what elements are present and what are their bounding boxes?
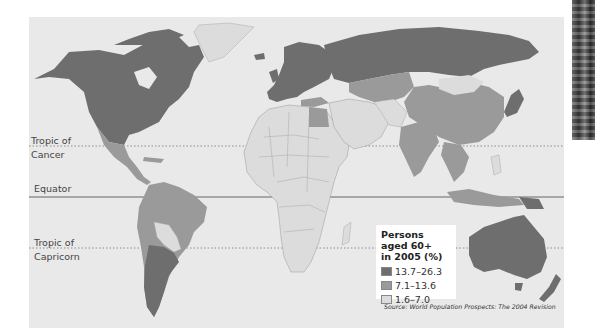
legend-item-high: 13.7–26.3	[381, 264, 451, 278]
world-map-panel: Tropic of Cancer Equator Tropic of Capri…	[29, 17, 564, 328]
legend-swatch-high	[381, 267, 392, 276]
tropic-of-capricorn-label: Tropic of Capricorn	[34, 237, 80, 263]
legend-swatch-mid	[381, 281, 392, 290]
egypt	[309, 107, 329, 127]
new-zealand	[539, 274, 561, 302]
north-america	[34, 37, 204, 145]
russia	[324, 27, 539, 83]
indonesia	[447, 189, 524, 207]
india	[399, 122, 439, 177]
source-caption: Source: World Population Prospects: The …	[384, 303, 556, 310]
legend-title: Persons aged 60+ in 2005 (%)	[381, 229, 451, 262]
japan	[504, 89, 524, 117]
australia	[469, 215, 547, 279]
legend-item-mid: 7.1–13.6	[381, 278, 451, 292]
africa	[244, 105, 349, 272]
world-map	[29, 17, 564, 328]
map-legend: Persons aged 60+ in 2005 (%) 13.7–26.3 7…	[376, 225, 456, 299]
tropic-of-cancer-label: Tropic of Cancer	[31, 135, 71, 161]
equator-label: Equator	[34, 183, 71, 195]
decorative-photo	[572, 0, 595, 140]
